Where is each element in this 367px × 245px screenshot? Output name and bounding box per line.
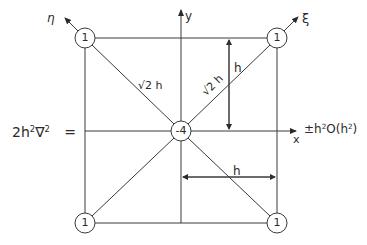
x-axis-label: x (293, 134, 300, 145)
lhs-exp2: 2 (45, 124, 50, 134)
horizontal-h-label: h (233, 165, 241, 177)
operator-lhs: 2h2∇2 = (12, 125, 76, 139)
plus-minus: ± (304, 122, 314, 136)
diag-left-length: √2 h (138, 80, 162, 91)
err-close: ) (353, 122, 358, 136)
node-top-right: 1 (267, 28, 287, 48)
node-bottom-left: 1 (75, 213, 95, 233)
equals-sign: = (64, 124, 76, 140)
finite-difference-stencil: 1 1 -4 1 1 η ξ y x √2 h √2 h h h 2h2∇2 =… (0, 0, 367, 245)
lhs-coeff: 2h (12, 124, 30, 140)
eta-label: η (47, 12, 55, 24)
node-bottom-right: 1 (267, 213, 287, 233)
error-term: ±h2O(h2) (304, 123, 357, 135)
node-top-left: 1 (75, 28, 95, 48)
vertical-h-label: h (234, 62, 242, 74)
y-axis-label: y (185, 10, 192, 22)
err-h: h (314, 122, 322, 136)
diag-bl (92, 138, 174, 216)
big-o: O(h (326, 122, 348, 136)
node-center: -4 (171, 121, 191, 141)
nabla-symbol: ∇ (35, 124, 44, 140)
xi-label: ξ (302, 12, 309, 25)
